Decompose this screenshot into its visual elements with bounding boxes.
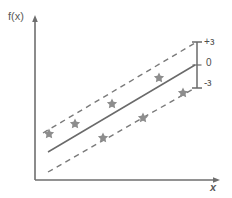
upper-epsilon-boundary-line xyxy=(43,43,195,133)
data-point-markers xyxy=(44,73,188,143)
data-point-star xyxy=(44,129,54,139)
data-point-star xyxy=(154,73,164,83)
plot-canvas xyxy=(0,0,232,198)
data-point-star xyxy=(178,88,188,98)
minus-epsilon-label: -ε xyxy=(204,77,212,88)
y-axis-arrow-icon xyxy=(32,15,38,22)
data-point-star xyxy=(70,119,80,129)
x-axis xyxy=(35,177,220,183)
zero-label: 0 xyxy=(206,57,212,68)
y-axis xyxy=(32,15,38,180)
epsilon-bracket xyxy=(192,42,202,88)
plus-epsilon-label: +ε xyxy=(204,36,214,47)
epsilon-glyph: ε xyxy=(207,77,211,88)
data-point-star xyxy=(107,99,117,109)
regression-line xyxy=(48,65,195,152)
lower-epsilon-boundary-line xyxy=(48,88,195,172)
x-axis-label: x xyxy=(210,181,216,193)
y-axis-label: f(x) xyxy=(8,10,24,22)
svr-epsilon-tube-figure: f(x) x +ε 0 -ε xyxy=(0,0,232,198)
data-point-star xyxy=(138,113,148,123)
epsilon-glyph: ε xyxy=(210,36,214,47)
